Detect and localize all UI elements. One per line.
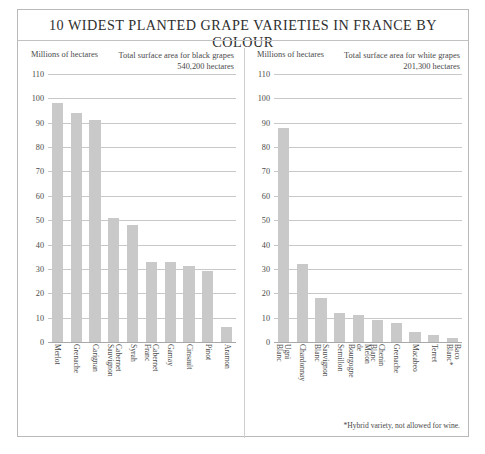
y-axis-tick-black-40: 40 [36, 240, 44, 249]
x-axis-label-slot: Cinsault [180, 344, 199, 426]
y-axis-tick-black-10: 10 [36, 313, 44, 322]
bar-slot [293, 74, 312, 342]
y-axis-tick-white-100: 100 [258, 94, 270, 103]
area-value-white: 201,300 hectares [320, 61, 460, 72]
x-axis-label: Cinsault [185, 344, 193, 369]
y-axis-tick-black-100: 100 [32, 94, 44, 103]
bar[interactable] [221, 327, 232, 342]
y-axis-tick-black-30: 30 [36, 264, 44, 273]
bar[interactable] [409, 332, 420, 342]
bar[interactable] [127, 225, 138, 342]
plot-area-black: 1101009080706050403020100 [48, 74, 236, 342]
y-axis-tick-black-90: 90 [36, 118, 44, 127]
y-axis-tick-black-80: 80 [36, 143, 44, 152]
bar[interactable] [372, 320, 383, 342]
bar-slot [349, 74, 368, 342]
x-axis-label: Chardonnay [298, 344, 306, 381]
bar-slot [274, 74, 293, 342]
bar[interactable] [447, 338, 458, 342]
bar[interactable] [146, 262, 157, 342]
x-axis-label: Merlot [53, 344, 61, 365]
area-caption-text-white: Total surface area for white grapes [344, 51, 460, 60]
x-axis-label-slot: Grenache [387, 344, 406, 426]
area-caption-white: Total surface area for white grapes 201,… [320, 50, 460, 72]
y-axis-tick-white-20: 20 [262, 289, 270, 298]
gridline-black-0: 0 [48, 342, 236, 343]
x-axis-label-slot: Chardonnay [293, 344, 312, 426]
y-axis-tick-black-70: 70 [36, 167, 44, 176]
x-axis-label: Carignan [91, 344, 99, 372]
bar-group-white [274, 74, 462, 342]
x-axis-label: Semillon [336, 344, 344, 371]
x-axis-label-slot: Merlot [48, 344, 67, 426]
bar[interactable] [108, 218, 119, 342]
y-axis-tick-black-0: 0 [40, 338, 44, 347]
bar[interactable] [165, 262, 176, 342]
y-axis-tick-white-40: 40 [262, 240, 270, 249]
page-title: 10 WIDEST PLANTED GRAPE VARIETIES IN FRA… [18, 17, 468, 51]
x-axis-label: UgniBlanc [275, 344, 291, 362]
bar[interactable] [353, 315, 364, 342]
x-axis-label-slot: Pinot [198, 344, 217, 426]
y-axis-tick-white-10: 10 [262, 313, 270, 322]
bar[interactable] [297, 264, 308, 342]
bar-slot [123, 74, 142, 342]
x-axis-label-slot: CheninBlanc [368, 344, 387, 426]
bar-group-black [48, 74, 236, 342]
bar-slot [104, 74, 123, 342]
x-axis-label: CabernetSauvignon [106, 344, 122, 377]
x-axis-label: Terret [430, 344, 438, 362]
y-axis-tick-white-110: 110 [258, 70, 270, 79]
x-axis-label: CheninBlanc [369, 344, 385, 366]
y-axis-tick-white-80: 80 [262, 143, 270, 152]
bar-slot [217, 74, 236, 342]
x-axis-label: CabernetFranc [143, 344, 159, 371]
bar[interactable] [202, 271, 213, 342]
x-axis-label-slot: SauvignonBlanc [312, 344, 331, 426]
x-axis-labels-black: MerlotGrenacheCarignanCabernetSauvignonS… [48, 344, 236, 426]
x-axis-label-slot: CabernetSauvignon [104, 344, 123, 426]
y-axis-tick-black-50: 50 [36, 216, 44, 225]
title-divider [18, 40, 468, 41]
y-axis-tick-white-70: 70 [262, 167, 270, 176]
plot-area-white: 1101009080706050403020100 [274, 74, 462, 342]
x-axis-label: Syrah [128, 344, 136, 362]
bar[interactable] [89, 120, 100, 342]
bar-slot [161, 74, 180, 342]
chart-frame: 10 WIDEST PLANTED GRAPE VARIETIES IN FRA… [17, 9, 469, 437]
x-axis-label-slot: CabernetFranc [142, 344, 161, 426]
footnote: *Hybrid variety, not allowed for wine. [343, 421, 460, 430]
bar-slot [67, 74, 86, 342]
area-caption-black: Total surface area for black grapes 540,… [94, 50, 234, 72]
y-axis-tick-black-110: 110 [32, 70, 44, 79]
x-axis-label-slot: Gamay [161, 344, 180, 426]
bar[interactable] [52, 103, 63, 342]
bar[interactable] [278, 128, 289, 342]
bar-slot [443, 74, 462, 342]
bar[interactable] [391, 323, 402, 342]
bar[interactable] [315, 298, 326, 342]
bar-slot [86, 74, 105, 342]
x-axis-label: Macabeo [411, 344, 419, 372]
bar-slot [368, 74, 387, 342]
bar[interactable] [71, 113, 82, 342]
bar[interactable] [183, 266, 194, 342]
y-axis-tick-white-30: 30 [262, 264, 270, 273]
bar-slot [330, 74, 349, 342]
x-axis-label-slot: Syrah [123, 344, 142, 426]
bar-slot [198, 74, 217, 342]
area-value-black: 540,200 hectares [94, 61, 234, 72]
x-axis-label: Grenache [72, 344, 80, 373]
x-axis-label-slot: Terret [424, 344, 443, 426]
bar[interactable] [428, 335, 439, 342]
y-axis-units-label-white: Millions of hectares [257, 50, 324, 59]
gridline-white-0: 0 [274, 342, 462, 343]
x-axis-label-slot: Carignan [86, 344, 105, 426]
bar-slot [180, 74, 199, 342]
x-axis-label: BacoBlanc* [444, 344, 460, 366]
x-axis-label-slot: Aramon [217, 344, 236, 426]
x-axis-label-slot: Macabeo [406, 344, 425, 426]
bar[interactable] [334, 313, 345, 342]
area-caption-text-black: Total surface area for black grapes [119, 51, 234, 60]
x-axis-label: Gamay [166, 344, 174, 366]
